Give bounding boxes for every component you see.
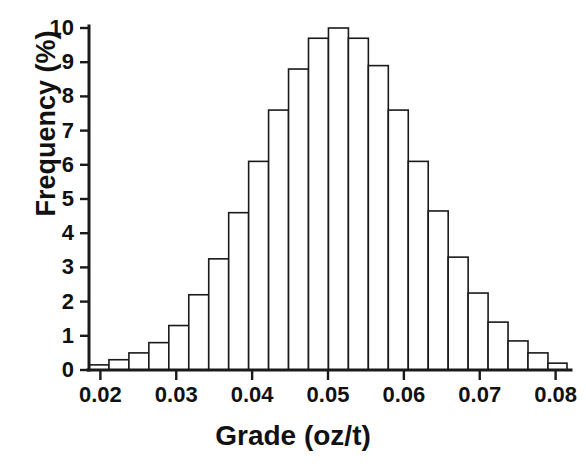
histogram-bar (468, 293, 488, 370)
histogram-bar (528, 353, 548, 370)
histogram-figure: Frequency (%) 012345678910 0.020.030.040… (0, 0, 586, 469)
histogram-bar (348, 38, 368, 370)
histogram-bar (109, 360, 129, 370)
x-tick-label: 0.06 (361, 384, 447, 406)
histogram-bar (269, 110, 289, 370)
x-tick-label: 0.05 (285, 384, 371, 406)
histogram-bar (488, 322, 508, 370)
y-tick-label: 6 (28, 154, 74, 176)
x-tick-label: 0.07 (437, 384, 523, 406)
histogram-bar (129, 353, 149, 370)
histogram-bar (408, 161, 428, 370)
y-tick-label: 9 (28, 51, 74, 73)
bars-group (89, 28, 567, 370)
x-tick-label: 0.02 (57, 384, 143, 406)
x-tick-label: 0.03 (133, 384, 219, 406)
y-tick-label: 8 (28, 85, 74, 107)
histogram-bar (249, 161, 269, 370)
y-tick-label: 5 (28, 188, 74, 210)
histogram-bar (149, 343, 169, 370)
histogram-bar (169, 326, 189, 370)
y-tick-label: 10 (28, 17, 74, 39)
histogram-bar (209, 259, 229, 370)
histogram-bar (388, 110, 408, 370)
histogram-bar (289, 69, 309, 370)
x-tick-label: 0.04 (209, 384, 295, 406)
histogram-bar (229, 213, 249, 370)
histogram-bar (368, 66, 388, 370)
histogram-bar (508, 341, 528, 370)
x-tick-label: 0.08 (513, 384, 586, 406)
histogram-bar (309, 38, 329, 370)
y-tick-label: 2 (28, 291, 74, 313)
y-tick-label: 4 (28, 222, 74, 244)
y-tick-label: 3 (28, 256, 74, 278)
y-tick-label: 1 (28, 325, 74, 347)
x-axis-title: Grade (oz/t) (0, 420, 586, 452)
histogram-bar (189, 295, 209, 370)
y-tick-label: 0 (28, 359, 74, 381)
histogram-bar (328, 28, 348, 370)
y-tick-label: 7 (28, 120, 74, 142)
histogram-bar (428, 211, 448, 370)
histogram-bar (448, 257, 468, 370)
